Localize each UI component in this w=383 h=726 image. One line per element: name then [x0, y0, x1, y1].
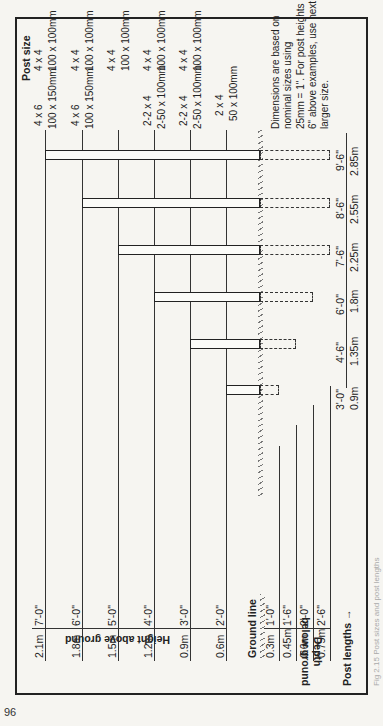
embed-3ft [260, 385, 279, 395]
depth-label: Depth below ground [300, 617, 324, 686]
post-length-metric: 2.55m [348, 195, 360, 224]
post-7ft6 [118, 245, 260, 255]
size-a-metric: 2-50 x 100mm [192, 65, 203, 129]
note-line: Dimensions are based on [270, 1, 282, 129]
post-length-metric: 1.35m [348, 337, 360, 366]
size-b-imperial: 4 x 4 [70, 49, 81, 71]
height-imperial: 6'-0" [70, 605, 82, 626]
row-line-7ft [45, 130, 46, 583]
embed-7ft6 [260, 245, 330, 255]
post-lengths-text: Post lengths [341, 623, 353, 686]
note-line: 6" above examples, use next [307, 1, 319, 129]
depth-label-line2: below ground [300, 617, 312, 686]
post-4ft6 [190, 339, 260, 349]
height-imperial: 5'-0" [106, 605, 118, 626]
post-length-metric: 2.85m [348, 147, 360, 176]
embed-6ft [260, 292, 313, 302]
height-metric: 0.6m [214, 635, 226, 658]
post-length-metric: 0.9m [348, 387, 360, 410]
size-b-imperial: 4 x 4 [178, 49, 189, 71]
embed-9ft6 [260, 150, 330, 160]
height-metric: 0.9m [178, 635, 190, 658]
size-a-imperial: 2 x 4 [214, 94, 225, 116]
post-lengths-label: Post lengths → [341, 610, 353, 686]
post-3ft [226, 385, 260, 395]
post-8ft6 [82, 198, 260, 208]
row-line-5ft [118, 130, 119, 531]
depth-metric: 0.45m [281, 629, 293, 658]
post-length-imperial: 3'-0" [334, 389, 346, 410]
depth-imperial: 1'-0" [264, 605, 276, 626]
ground-line [258, 130, 263, 496]
size-b-imperial: 4 x 4 [33, 49, 44, 71]
height-imperial: 7'-0" [33, 605, 45, 626]
size-a-imperial: 4 x 6 [33, 104, 44, 126]
rotated-page: 96 Post size 2.1m 7'-0" 1.8m 6'-0" 1.5m … [0, 0, 383, 726]
height-imperial: 2'-0" [214, 605, 226, 626]
label-divider [32, 628, 46, 629]
note-line: nominal sizes using [282, 1, 294, 129]
size-b-imperial: 4 x 4 [142, 49, 153, 71]
row-line-6ft [82, 130, 83, 551]
size-a-metric: 2-50 x 100mm [156, 65, 167, 129]
post-length-rule [346, 133, 347, 388]
size-b-imperial: 4 x 4 [106, 49, 117, 71]
post-length-imperial: 8'-6" [334, 198, 346, 219]
depth-divider [330, 386, 331, 661]
size-a-imperial: 4 x 6 [70, 104, 81, 126]
row-divider-2ft [226, 531, 227, 661]
depth-divider [296, 425, 297, 661]
dimensions-note: Dimensions are based on nominal sizes us… [270, 1, 331, 129]
note-line: larger size. [319, 1, 331, 129]
post-length-imperial: 6'-0" [334, 294, 346, 315]
height-imperial: 4'-0" [142, 605, 154, 626]
ground-line-label: Ground line [246, 599, 258, 658]
post-size-title: Post size [20, 35, 32, 81]
row-divider-3ft [190, 531, 191, 661]
post-length-metric: 2.25m [348, 243, 360, 272]
height-above-ground-label: Height above ground [65, 634, 170, 646]
size-b-metric: 100 x 100mm [192, 10, 203, 71]
depth-metric: 0.3m [264, 635, 276, 658]
row-line-2ft [226, 130, 227, 531]
figure-caption: Fig 2.15 Post sizes and post lengths [372, 557, 381, 686]
depth-imperial: 1'-6" [281, 605, 293, 626]
size-a-imperial: 2-2 x 4 [142, 95, 153, 126]
size-b-metric: 100 x 100mm [84, 10, 95, 71]
row-line-3ft [190, 130, 191, 531]
height-metric: 2.1m [33, 635, 45, 658]
post-length-imperial: 9'-6" [334, 150, 346, 171]
page-number: 96 [4, 706, 16, 718]
post-length-imperial: 7'-6" [334, 246, 346, 267]
post-length-metric: 1.8m [348, 290, 360, 313]
row-line-4ft [154, 130, 155, 531]
post-9ft6 [45, 150, 260, 160]
row-divider-7ft [45, 583, 46, 661]
size-a-metric: 100 x 150mm [47, 68, 58, 129]
depth-label-line1: Depth [312, 617, 324, 686]
embed-8ft6 [260, 198, 330, 208]
note-line: 25mm = 1". For post heights [295, 1, 307, 129]
post-length-imperial: 4'-6" [334, 342, 346, 363]
size-b-metric: 100 x 100mm [156, 10, 167, 71]
height-imperial: 3'-0" [178, 605, 190, 626]
size-a-metric: 100 x 150mm [84, 68, 95, 129]
embed-4ft6 [260, 339, 296, 349]
size-b-metric: 100 x 100mm [120, 10, 131, 71]
size-a-imperial: 2-2 x 4 [178, 95, 189, 126]
arrow-right-icon: → [341, 610, 353, 621]
size-a-metric: 50 x 100mm [228, 66, 239, 121]
label-divider [45, 628, 226, 629]
post-6ft [154, 292, 260, 302]
size-b-metric: 100 x 100mm [47, 10, 58, 71]
